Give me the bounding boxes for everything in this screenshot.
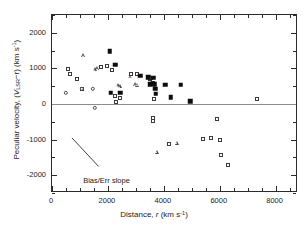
y-tick-label: -2000 (12, 170, 46, 179)
x-tick-label: 6000 (210, 196, 227, 205)
x-tick-label: 2000 (99, 196, 116, 205)
x-tick-label: 8000 (266, 196, 283, 205)
x-tick-label: 4000 (154, 196, 171, 205)
y-tick-label: 0 (12, 99, 46, 108)
y-tick-label: 1000 (12, 63, 46, 72)
figure-scatter-peculiar-velocity: × Distance, r (km s-1) Peculiar velocity… (0, 0, 308, 227)
x-tick-label: 0 (49, 196, 53, 205)
y-tick-label: -1000 (12, 134, 46, 143)
bias-err-slope-label: Bias/Err slope (83, 176, 130, 185)
bias-err-slope-line (0, 0, 308, 227)
y-tick-label: 2000 (12, 27, 46, 36)
